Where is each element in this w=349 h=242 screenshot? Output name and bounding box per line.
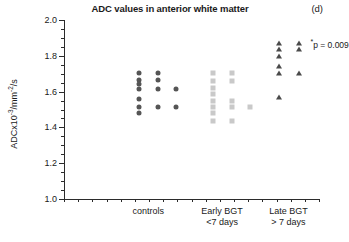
x-tick xyxy=(262,199,263,202)
y-axis-label-exp2: -2 xyxy=(7,86,14,92)
y-tick-minor xyxy=(61,101,64,102)
y-axis-line xyxy=(64,20,65,200)
data-point-square xyxy=(211,111,216,116)
y-tick-minor xyxy=(61,145,64,146)
x-tick xyxy=(92,199,93,202)
y-tick-label: 1.4 xyxy=(44,122,57,132)
panel-label: (d) xyxy=(311,3,323,14)
x-tick xyxy=(177,199,178,202)
p-value-annotation: *p = 0.009 xyxy=(310,38,348,50)
chart-title: ADC values in anterior white matter xyxy=(70,3,270,14)
data-point-circle xyxy=(156,87,161,92)
y-axis-label-exp1: -3 xyxy=(7,110,14,116)
y-tick-label: 1.2 xyxy=(44,158,57,168)
x-category-label-1: controls xyxy=(132,206,164,217)
data-point-circle xyxy=(137,105,142,110)
x-tick xyxy=(64,199,65,202)
data-point-circle xyxy=(137,70,142,75)
y-tick-label: 1.6 xyxy=(44,87,57,97)
data-point-square xyxy=(211,105,216,110)
data-point-square xyxy=(211,118,216,123)
y-axis-label: ADCx10-3/mm-2/s xyxy=(7,54,19,174)
data-point-square xyxy=(230,99,235,104)
data-point-square xyxy=(211,85,216,90)
y-tick-minor xyxy=(61,154,64,155)
data-point-circle xyxy=(137,96,142,101)
y-tick-minor xyxy=(61,65,64,66)
data-point-triangle xyxy=(276,64,282,69)
data-point-circle xyxy=(156,105,161,110)
data-point-triangle xyxy=(276,40,282,45)
data-point-square xyxy=(230,118,235,123)
data-point-circle xyxy=(156,77,161,82)
y-tick-minor xyxy=(61,118,64,119)
x-tick xyxy=(277,199,278,202)
y-tick-minor xyxy=(61,38,64,39)
data-point-square xyxy=(211,78,216,83)
data-point-triangle xyxy=(296,70,302,75)
y-tick-major xyxy=(59,20,64,21)
x-category-label-line2: > 7 days xyxy=(269,217,308,228)
y-tick-major xyxy=(59,92,64,93)
y-tick-minor xyxy=(61,172,64,173)
x-tick xyxy=(107,199,108,202)
x-category-label-line1: Early BGT xyxy=(201,206,243,217)
x-tick xyxy=(305,199,306,202)
x-tick xyxy=(248,199,249,202)
x-tick xyxy=(121,199,122,202)
x-category-label-line1: Late BGT xyxy=(269,206,308,217)
y-tick-major xyxy=(59,163,64,164)
x-tick xyxy=(319,199,320,202)
x-category-label-2: Early BGT<7 days xyxy=(201,206,243,228)
y-tick-label: 2.0 xyxy=(44,15,57,25)
y-axis-label-base: ADCx10 xyxy=(9,115,19,149)
x-tick xyxy=(163,199,164,202)
x-tick xyxy=(149,199,150,202)
y-tick-major xyxy=(59,56,64,57)
x-category-label-line2: <7 days xyxy=(201,217,243,228)
data-point-circle xyxy=(137,111,142,116)
y-tick-minor xyxy=(61,181,64,182)
data-point-square xyxy=(211,70,216,75)
y-tick-minor xyxy=(61,74,64,75)
y-tick-major xyxy=(59,127,64,128)
data-point-circle xyxy=(174,87,179,92)
y-tick-label: 1.8 xyxy=(44,51,57,61)
x-tick xyxy=(78,199,79,202)
data-point-square xyxy=(230,70,235,75)
data-point-square xyxy=(248,105,253,110)
x-tick xyxy=(291,199,292,202)
data-point-triangle xyxy=(276,46,282,51)
data-point-triangle xyxy=(296,46,302,51)
y-tick-minor xyxy=(61,136,64,137)
data-point-triangle xyxy=(276,70,282,75)
data-point-circle xyxy=(174,105,179,110)
x-tick xyxy=(206,199,207,202)
data-point-square xyxy=(230,105,235,110)
data-point-square xyxy=(230,78,235,83)
p-value-text: p = 0.009 xyxy=(313,40,349,50)
data-point-triangle xyxy=(276,53,282,58)
x-tick xyxy=(220,199,221,202)
data-point-triangle xyxy=(276,94,282,99)
y-tick-minor xyxy=(61,29,64,30)
y-axis-label-tail: /s xyxy=(9,79,19,86)
y-tick-minor xyxy=(61,110,64,111)
y-tick-minor xyxy=(61,47,64,48)
y-tick-minor xyxy=(61,83,64,84)
data-point-square xyxy=(211,99,216,104)
data-point-circle xyxy=(137,87,142,92)
x-category-label-3: Late BGT> 7 days xyxy=(269,206,308,228)
x-tick xyxy=(192,199,193,202)
x-category-label-line1: controls xyxy=(132,206,164,217)
y-axis-label-mid: /mm xyxy=(9,92,19,110)
data-point-circle xyxy=(156,70,161,75)
x-tick xyxy=(234,199,235,202)
data-point-square xyxy=(211,92,216,97)
x-tick xyxy=(135,199,136,202)
y-tick-minor xyxy=(61,190,64,191)
data-point-triangle xyxy=(296,40,302,45)
y-tick-label: 1.0 xyxy=(44,194,57,204)
